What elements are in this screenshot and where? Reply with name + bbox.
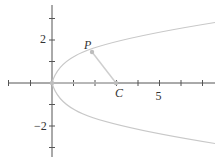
point-origin bbox=[50, 81, 54, 85]
segment-pc bbox=[92, 52, 116, 83]
y-tick-label-neg2: −2 bbox=[34, 119, 47, 133]
point-c bbox=[114, 81, 118, 85]
y-tick-label-2: 2 bbox=[40, 32, 46, 46]
point-label-c: C bbox=[115, 86, 124, 100]
parabola-plot: 5 2 −2 P C bbox=[0, 0, 215, 163]
point-label-p: P bbox=[83, 38, 92, 52]
x-tick-label-5: 5 bbox=[156, 89, 162, 103]
